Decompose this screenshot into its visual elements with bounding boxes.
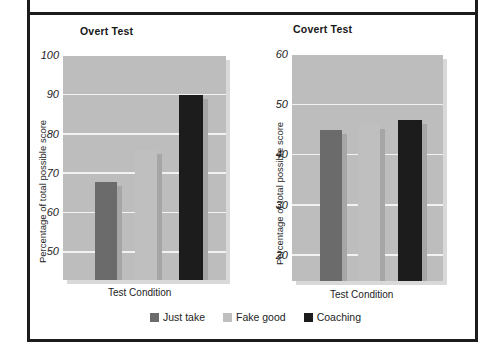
figure-top-strip xyxy=(27,0,478,12)
bar-coaching xyxy=(179,95,203,280)
y-tick-label: 60 xyxy=(276,49,288,60)
y-tick-label: 80 xyxy=(47,129,59,140)
x-axis-title-covert: Test Condition xyxy=(330,289,393,300)
legend-label: Just take xyxy=(163,311,205,323)
legend-swatch-icon xyxy=(304,313,313,322)
y-tick-label: 60 xyxy=(47,207,59,218)
chart-legend: Just takeFake goodCoaching xyxy=(30,311,481,323)
y-tick-label: 50 xyxy=(276,99,288,110)
legend-label: Fake good xyxy=(236,311,286,323)
chart-panel-overt: Overt Test Percentage of total possible … xyxy=(30,15,262,315)
y-tick-label: 30 xyxy=(276,200,288,211)
chart-panel-covert: Covert Test Percentage of total possible… xyxy=(262,15,481,315)
y-tick-label: 20 xyxy=(276,250,288,261)
plot-area-overt xyxy=(63,56,226,280)
bar-fake-good xyxy=(135,150,157,280)
y-tick-label: 90 xyxy=(47,89,59,100)
bar-just-take xyxy=(320,130,342,281)
figure-frame: Overt Test Percentage of total possible … xyxy=(27,12,478,342)
y-tick-label: 70 xyxy=(47,168,59,179)
legend-label: Coaching xyxy=(317,311,361,323)
bar-coaching xyxy=(398,120,422,281)
y-tick-label: 40 xyxy=(276,149,288,160)
chart-title-overt: Overt Test xyxy=(80,25,133,37)
plot-area-covert xyxy=(292,55,443,281)
figure-root: Overt Test Percentage of total possible … xyxy=(0,0,484,352)
legend-swatch-icon xyxy=(223,313,232,322)
y-tick-label: 100 xyxy=(41,50,59,61)
legend-swatch-icon xyxy=(150,313,159,322)
y-axis-ticks-covert: 2030405060 xyxy=(262,15,288,315)
gridline xyxy=(292,104,443,106)
legend-item: Coaching xyxy=(304,311,361,323)
bar-just-take xyxy=(95,182,117,280)
x-axis-title-overt: Test Condition xyxy=(108,287,171,298)
bar-fake-good xyxy=(358,125,380,281)
legend-item: Just take xyxy=(150,311,205,323)
legend-item: Fake good xyxy=(223,311,286,323)
y-tick-label: 50 xyxy=(47,246,59,257)
chart-title-covert: Covert Test xyxy=(293,23,352,35)
y-axis-ticks-overt: 5060708090100 xyxy=(30,15,59,315)
